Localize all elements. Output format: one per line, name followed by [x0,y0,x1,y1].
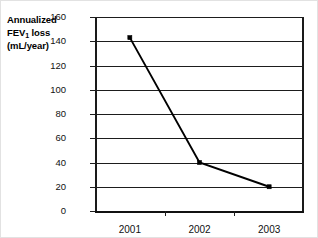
series-markers [128,36,271,189]
x-axis-tick-label: 2001 [100,224,160,235]
y-axis-tick-label: 20 [26,182,66,192]
data-point-marker [198,161,202,165]
x-axis-tick-mark [234,211,235,216]
x-axis-tick-mark [165,211,166,216]
x-axis-tick-label: 2002 [170,224,230,235]
y-axis-tick-mark [90,211,95,212]
y-axis-tick-label: 120 [26,61,66,71]
x-axis-tick-label: 2003 [239,224,299,235]
data-series [95,17,304,211]
data-point-marker [128,36,132,40]
chart-figure: Annualized FEV1 loss (mL/year) 020406080… [0,0,318,238]
y-axis-tick-label: 60 [26,134,66,144]
y-axis-tick-label: 40 [26,158,66,168]
y-axis-tick-label: 80 [26,109,66,119]
data-point-marker [267,185,271,189]
y-axis-title-fev: FEV [7,27,25,38]
gridline [95,211,304,213]
plot-area: 020406080100120140160 200120022003 [95,17,304,211]
y-axis-tick-label: 140 [26,37,66,47]
y-axis-tick-label: 0 [26,206,66,216]
y-axis-tick-label: 160 [26,12,66,22]
y-axis-tick-label: 100 [26,85,66,95]
